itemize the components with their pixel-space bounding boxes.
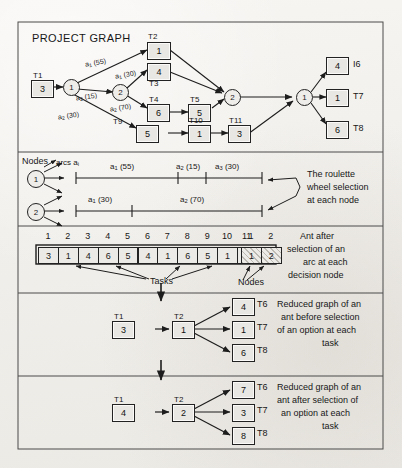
roulette-seg-label-a2-70: a2 (70) <box>180 196 204 204</box>
reduced-after-box-t2[interactable]: 2 <box>172 404 195 422</box>
reduced-after-label-t6: T6 <box>257 383 268 392</box>
roulette-caption-line-2: wheel selection <box>307 183 369 192</box>
task-label-t8: T8 <box>353 124 364 133</box>
decision-node-2[interactable]: 2 <box>112 84 129 101</box>
roulette-seg-label-a2-15: a2 (15) <box>176 163 200 171</box>
reduced-before-caption-line-2: ant before selection <box>281 313 360 322</box>
project-graph-title: PROJECT GRAPH <box>32 33 131 45</box>
ant-array-task-cell[interactable]: 1 <box>217 247 238 264</box>
ant-array-task-header: 3 <box>85 232 90 241</box>
ant-array-node-header: 2 <box>268 232 273 241</box>
ant-array-node-cell[interactable]: 2 <box>261 247 282 264</box>
roulette-seg-label-a1-30: a1 (30) <box>88 196 112 204</box>
ant-array-node-cell[interactable]: 1 <box>241 247 262 264</box>
ant-array-task-header: 2 <box>65 232 70 241</box>
ant-array-tasks-annotation: Tasks <box>150 277 173 286</box>
reduced-after-label-t7: T7 <box>257 406 268 415</box>
ant-array-task-cell[interactable]: 4 <box>138 247 159 264</box>
ant-array-caption-line-3: arc at each <box>303 258 348 267</box>
ant-array-caption-line-2: selection of an <box>287 245 345 254</box>
roulette-seg-label-a1-55: a1 (55) <box>110 163 134 171</box>
task-box-t8[interactable]: 6 <box>326 121 349 139</box>
task-box-t11[interactable]: 3 <box>228 125 251 143</box>
reduced-before-box-t7[interactable]: 1 <box>232 321 255 339</box>
task-label-t7: T7 <box>353 92 364 101</box>
figure-canvas: PROJECT GRAPH T1 3 1 2 T2 1 4 T3 T4 6 T5… <box>0 0 402 468</box>
ant-array-task-cell[interactable]: 3 <box>38 247 59 264</box>
ant-array-caption-line-4: decision node <box>288 271 344 280</box>
ant-array-task-cell[interactable]: 6 <box>98 247 119 264</box>
task-box-t2[interactable]: 1 <box>147 42 171 60</box>
ant-array-task-cell[interactable]: 6 <box>177 247 198 264</box>
ant-array-task-cell[interactable]: 4 <box>78 247 99 264</box>
ant-array-node-header: 1 <box>248 232 253 241</box>
reduced-before-caption-line-1: Reduced graph of an <box>277 300 361 309</box>
reduced-before-box-t2[interactable]: 1 <box>172 321 195 339</box>
roulette-caption-line-3: at each node <box>307 196 359 205</box>
reduced-before-label-t8: T8 <box>257 346 268 355</box>
ant-array-task-cell[interactable]: 1 <box>157 247 178 264</box>
task-box-t10[interactable]: 1 <box>188 125 211 143</box>
ant-array-task-header: 9 <box>205 232 210 241</box>
reduced-after-box-t8[interactable]: 8 <box>232 427 255 445</box>
roulette-node-1[interactable]: 1 <box>27 170 45 188</box>
reduced-before-box-t6[interactable]: 4 <box>232 298 255 316</box>
reduced-after-caption-line-3: an option at each <box>281 409 350 418</box>
task-box-t6[interactable]: 4 <box>326 57 349 75</box>
reduced-after-caption-line-4: task <box>322 422 339 431</box>
roulette-caption-line-1: The roulette <box>307 170 355 179</box>
task-label-t6: I6 <box>353 60 361 69</box>
decision-node-4[interactable]: 1 <box>296 89 313 106</box>
ant-array-nodes-annotation: Nodes <box>238 278 264 287</box>
task-label-t3: T3 <box>149 80 158 88</box>
reduced-before-caption-line-4: task <box>322 339 339 348</box>
ant-array-task-header: 5 <box>125 232 130 241</box>
reduced-after-box-t7[interactable]: 3 <box>232 404 255 422</box>
ant-array-task-header: 10 <box>222 232 232 241</box>
ant-array-caption-line-1: Ant after <box>300 232 334 241</box>
ant-array-task-header: 1 <box>45 232 50 241</box>
reduced-before-box-t8[interactable]: 6 <box>232 344 255 362</box>
reduced-before-label-t7: T7 <box>257 323 268 332</box>
task-box-t4[interactable]: 6 <box>147 104 170 122</box>
reduced-before-box-t1[interactable]: 3 <box>112 321 135 339</box>
ant-array-task-header: 7 <box>165 232 170 241</box>
reduced-after-box-t1[interactable]: 4 <box>112 404 135 422</box>
ant-array-task-header: 6 <box>145 232 150 241</box>
task-label-t2: T2 <box>148 33 157 41</box>
reduced-after-box-t6[interactable]: 7 <box>232 381 255 399</box>
decision-node-3[interactable]: 2 <box>224 89 241 106</box>
reduced-after-label-t8: T8 <box>257 429 268 438</box>
ant-array-task-cell[interactable]: 5 <box>118 247 139 264</box>
roulette-node-2[interactable]: 2 <box>27 203 45 221</box>
roulette-nodes-label: Nodes <box>22 157 48 166</box>
reduced-before-label-t6: T6 <box>257 300 268 309</box>
roulette-seg-label-a3-30: a3 (30) <box>215 163 239 171</box>
task-box-t9[interactable]: 5 <box>136 125 159 143</box>
ant-array-task-cell[interactable]: 1 <box>58 247 79 264</box>
task-box-t7[interactable]: 1 <box>326 89 349 107</box>
roulette-arcs-label: arcs ai <box>56 159 79 167</box>
ant-array-task-cell[interactable]: 5 <box>197 247 218 264</box>
task-label-t9: T9 <box>113 118 122 126</box>
ant-array-task-header: 8 <box>185 232 190 241</box>
reduced-after-caption-line-2: ant after selection of <box>277 396 358 405</box>
reduced-before-caption-line-3: of an option at each <box>277 326 356 335</box>
reduced-after-caption-line-1: Reduced graph of an <box>277 383 361 392</box>
ant-array-task-header: 4 <box>105 232 110 241</box>
task-box-t1[interactable]: 3 <box>31 80 54 98</box>
